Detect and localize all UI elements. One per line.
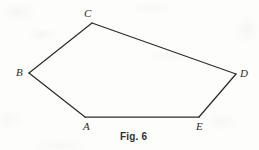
vertex-label-D: D	[240, 68, 248, 79]
polygon-edges	[29, 23, 236, 117]
figure-caption: Fig. 6	[120, 131, 147, 142]
edge-D-E	[199, 74, 236, 117]
edge-C-D	[92, 23, 236, 74]
figure-container: A B C D E Fig. 6	[0, 0, 259, 150]
edge-A-B	[29, 73, 85, 117]
vertex-label-C: C	[84, 8, 91, 19]
vertex-label-E: E	[196, 121, 203, 132]
pentagon-diagram	[0, 0, 259, 150]
vertex-label-B: B	[16, 67, 23, 78]
vertex-label-A: A	[83, 121, 90, 132]
edge-B-C	[29, 23, 92, 73]
